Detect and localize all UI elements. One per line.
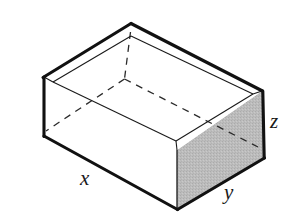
dimension-label-z: z [270,111,278,132]
dimension-label-x: x [80,168,89,189]
figure-container: x y z [0,0,295,221]
open-box-diagram [0,0,295,221]
dimension-label-y: y [224,182,233,203]
outer-edge-right-vertical-z [263,91,264,158]
